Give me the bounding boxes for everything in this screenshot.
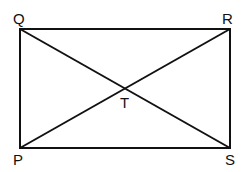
vertex-label-s: S — [225, 151, 235, 168]
vertex-label-p: P — [13, 151, 23, 168]
rectangle-diagram: Q R P S T — [0, 0, 246, 172]
vertex-label-q: Q — [13, 10, 25, 27]
vertex-label-r: R — [222, 10, 233, 27]
intersection-label-t: T — [120, 94, 129, 111]
